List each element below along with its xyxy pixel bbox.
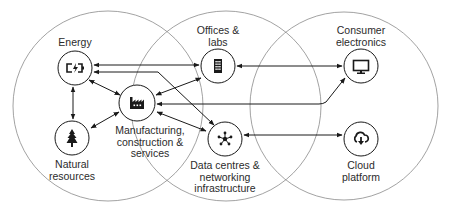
label-datacentres: Data centres & networking infrastructure — [190, 160, 259, 195]
label-consumer: Consumer electronics — [336, 25, 386, 48]
node-consumer — [344, 49, 378, 83]
label-natural: Natural resources — [49, 159, 95, 182]
label-manufacturing: Manufacturing, construction & services — [115, 125, 184, 160]
label-cloud: Cloud platform — [342, 160, 380, 183]
connection-energy-manufacturing — [89, 80, 120, 95]
office-building-icon — [214, 59, 222, 73]
region-left — [13, 11, 203, 201]
label-offices: Offices & labs — [197, 25, 239, 48]
connection-manufacturing-offices — [156, 78, 201, 95]
label-energy: Energy — [58, 37, 91, 49]
